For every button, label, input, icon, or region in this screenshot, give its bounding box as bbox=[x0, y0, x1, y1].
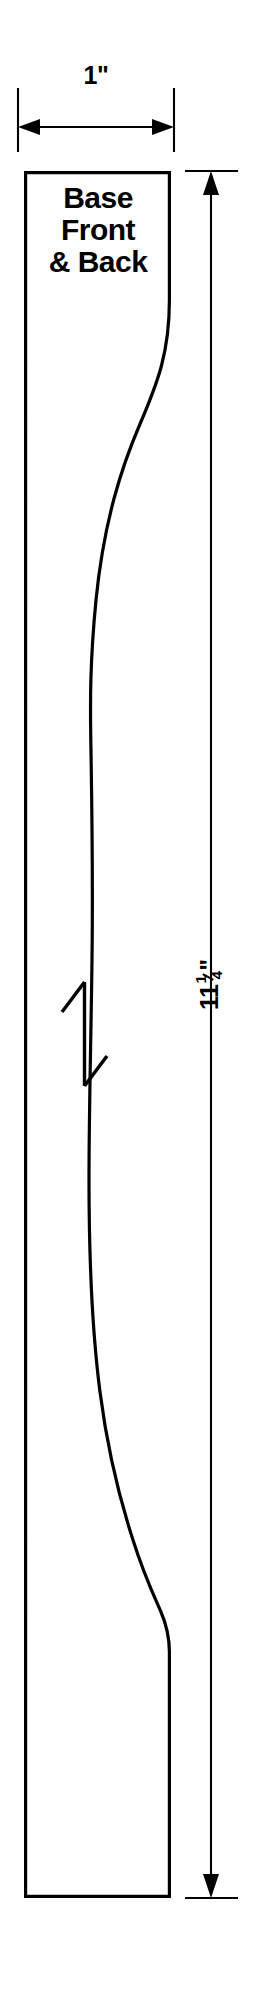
height-dim-arrowhead-bottom bbox=[203, 1874, 219, 1898]
height-dim-denominator: 4 bbox=[209, 971, 225, 981]
height-dim-whole: 11 bbox=[195, 985, 223, 1010]
part-name-line-3: & Back bbox=[24, 246, 172, 278]
part-name-label: Base Front & Back bbox=[24, 182, 172, 278]
part-name-line-2: Front bbox=[24, 214, 172, 246]
technical-drawing: 1" Base Front & Back 1114" bbox=[0, 0, 276, 2008]
part-outline-path bbox=[26, 173, 170, 1897]
height-dimension-label: 1114" bbox=[197, 959, 222, 1010]
height-dim-fraction: 14 bbox=[203, 971, 219, 984]
width-dim-arrowhead-right bbox=[152, 119, 174, 135]
part-name-line-1: Base bbox=[24, 182, 172, 214]
width-dim-arrowhead-left bbox=[18, 119, 40, 135]
height-dim-arrowhead-top bbox=[203, 171, 219, 195]
height-dim-unit: " bbox=[195, 959, 223, 970]
drawing-canvas bbox=[0, 0, 276, 2008]
height-dimension-group bbox=[185, 171, 238, 1898]
width-dimension-group bbox=[18, 88, 174, 152]
width-dimension-label: 1" bbox=[18, 63, 174, 88]
